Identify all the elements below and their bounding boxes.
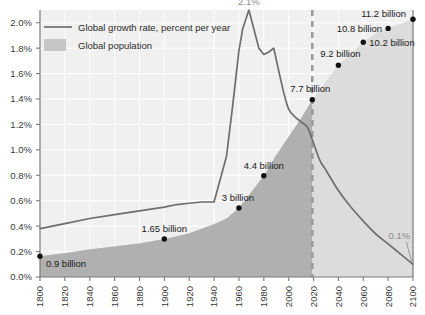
y-tick-label: 0.8%: [10, 170, 32, 181]
population-data-label: 3 billion: [222, 192, 254, 203]
y-tick-label: 1.8%: [10, 43, 32, 54]
population-data-point: [410, 17, 415, 22]
population-data-point: [361, 40, 366, 45]
population-data-label: 4.4 billion: [244, 160, 284, 171]
population-data-label: 11.2 billion: [361, 8, 406, 19]
x-tick-label: 1820: [59, 286, 70, 307]
y-tick-label: 1.4%: [10, 93, 32, 104]
x-tick-label: 1920: [184, 286, 195, 307]
x-tick-label: 2040: [333, 286, 344, 307]
y-tick-label: 0.0%: [10, 271, 32, 282]
x-tick-label: 1980: [258, 286, 269, 307]
x-tick-label: 1880: [134, 286, 145, 307]
x-tick-label: 1900: [159, 286, 170, 307]
x-tick-label: 2080: [383, 286, 394, 307]
population-data-point: [310, 97, 315, 102]
x-tick-label: 2020: [308, 286, 319, 307]
population-data-point: [37, 254, 42, 259]
x-tick-label: 2100: [407, 286, 418, 307]
y-tick-label: 1.2%: [10, 119, 32, 130]
population-data-label: 10.8 billion: [337, 23, 382, 34]
x-tick-label: 1800: [34, 286, 45, 307]
y-tick-label: 1.0%: [10, 144, 32, 155]
population-data-label: 9.2 billion: [320, 48, 360, 59]
population-data-point: [336, 63, 341, 68]
x-axis-ticks: 1800182018401860188019001920194019601980…: [34, 277, 418, 307]
x-tick-label: 1960: [233, 286, 244, 307]
x-tick-label: 2060: [358, 286, 369, 307]
y-tick-label: 0.2%: [10, 246, 32, 257]
population-data-label: 0.9 billion: [46, 258, 86, 269]
population-data-label: 1.65 billion: [142, 223, 187, 234]
population-data-point: [236, 205, 241, 210]
population-data-label: 7.7 billion: [290, 83, 330, 94]
y-tick-label: 1.6%: [10, 68, 32, 79]
chart-canvas: 0.0%0.2%0.4%0.6%0.8%1.0%1.2%1.4%1.6%1.8%…: [0, 0, 425, 315]
population-data-point: [385, 26, 390, 31]
y-tick-label: 2.0%: [10, 17, 32, 28]
x-tick-label: 2000: [283, 286, 294, 307]
population-growth-chart: 0.0%0.2%0.4%0.6%0.8%1.0%1.2%1.4%1.6%1.8%…: [0, 0, 425, 315]
x-tick-label: 1840: [84, 286, 95, 307]
legend-label-population: Global population: [78, 40, 152, 51]
x-tick-label: 1860: [109, 286, 120, 307]
legend-area-swatch: [44, 39, 66, 51]
y-axis-ticks: 0.0%0.2%0.4%0.6%0.8%1.0%1.2%1.4%1.6%1.8%…: [10, 17, 40, 282]
population-data-label: 10.2 billion: [369, 37, 414, 48]
y-tick-label: 0.6%: [10, 195, 32, 206]
y-tick-label: 0.4%: [10, 221, 32, 232]
tail-growth-label: 0.1%: [388, 230, 410, 241]
population-data-point: [261, 173, 266, 178]
x-tick-label: 1940: [208, 286, 219, 307]
peak-growth-label: 2.1%: [238, 0, 260, 7]
legend-label-growth-rate: Global growth rate, percent per year: [78, 22, 230, 33]
population-data-point: [162, 236, 167, 241]
